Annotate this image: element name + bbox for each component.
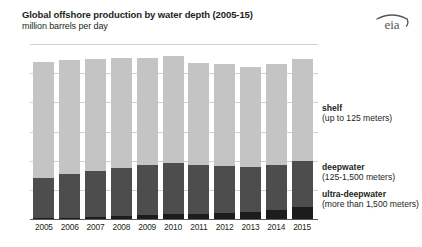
bar-segment-ultra-deepwater-2012[interactable] — [214, 213, 235, 219]
plot-area: 30 25 20 15 10 5 0 200520062007200820092… — [30, 44, 318, 219]
x-tick-2015: 2015 — [287, 222, 317, 232]
bar-segment-shelf-2014[interactable] — [266, 64, 287, 165]
bar-segment-deepwater-2013[interactable] — [240, 167, 261, 213]
bar-2015[interactable] — [292, 59, 313, 219]
bar-segment-deepwater-2006[interactable] — [59, 174, 80, 218]
bar-segment-deepwater-2008[interactable] — [111, 168, 132, 216]
bar-segment-shelf-2015[interactable] — [292, 59, 313, 161]
bar-2007[interactable] — [85, 59, 106, 219]
bar-2011[interactable] — [188, 63, 209, 219]
bar-segment-shelf-2009[interactable] — [137, 58, 158, 165]
bar-segment-shelf-2008[interactable] — [111, 58, 132, 168]
bar-2008[interactable] — [111, 58, 132, 219]
bar-segment-ultra-deepwater-2009[interactable] — [137, 215, 158, 219]
bar-segment-shelf-2007[interactable] — [85, 59, 106, 172]
bar-segment-deepwater-2005[interactable] — [33, 178, 54, 218]
bar-2009[interactable] — [137, 58, 158, 219]
bar-segment-deepwater-2011[interactable] — [188, 165, 209, 213]
legend-label-ultra-deepwater: ultra-deepwater — [322, 189, 419, 199]
legend-label-shelf: shelf — [322, 103, 392, 113]
bar-2010[interactable] — [163, 56, 184, 219]
bar-2012[interactable] — [214, 64, 235, 219]
chart-figure: Global offshore production by water dept… — [0, 0, 422, 247]
eia-logo: eia — [371, 10, 413, 34]
legend-detail-deepwater: (125-1,500 meters) — [322, 172, 395, 182]
chart-subtitle: million barrels per day — [22, 21, 108, 31]
bar-segment-ultra-deepwater-2013[interactable] — [240, 212, 261, 219]
bar-segment-ultra-deepwater-2011[interactable] — [188, 214, 209, 219]
svg-text:eia: eia — [384, 17, 399, 32]
bar-segment-shelf-2005[interactable] — [33, 62, 54, 179]
bar-2014[interactable] — [266, 64, 287, 219]
bar-segment-shelf-2006[interactable] — [59, 60, 80, 173]
bar-segment-deepwater-2014[interactable] — [266, 165, 287, 210]
bar-segment-ultra-deepwater-2014[interactable] — [266, 210, 287, 219]
bar-segment-deepwater-2012[interactable] — [214, 166, 235, 213]
bar-segment-ultra-deepwater-2008[interactable] — [111, 216, 132, 219]
bar-segment-ultra-deepwater-2015[interactable] — [292, 207, 313, 219]
legend-detail-ultra-deepwater: (more than 1,500 meters) — [322, 199, 419, 209]
bar-segment-ultra-deepwater-2006[interactable] — [59, 218, 80, 219]
bar-segment-shelf-2011[interactable] — [188, 63, 209, 165]
bar-2006[interactable] — [59, 60, 80, 219]
legend-item-shelf: shelf (up to 125 meters) — [322, 103, 392, 123]
bar-segment-deepwater-2009[interactable] — [137, 165, 158, 215]
bar-segment-deepwater-2015[interactable] — [292, 161, 313, 208]
legend-label-deepwater: deepwater — [322, 162, 395, 172]
bar-segment-deepwater-2007[interactable] — [85, 171, 106, 217]
legend-item-deepwater: deepwater (125-1,500 meters) — [322, 162, 395, 182]
bar-segment-deepwater-2010[interactable] — [163, 163, 184, 214]
bar-segment-shelf-2012[interactable] — [214, 64, 235, 166]
bar-segment-ultra-deepwater-2007[interactable] — [85, 217, 106, 219]
bar-segment-shelf-2013[interactable] — [240, 67, 261, 167]
legend-detail-shelf: (up to 125 meters) — [322, 113, 392, 123]
bar-segment-ultra-deepwater-2010[interactable] — [163, 214, 184, 219]
chart-title: Global offshore production by water dept… — [22, 9, 253, 20]
bar-segment-shelf-2010[interactable] — [163, 56, 184, 163]
legend-item-ultra-deepwater: ultra-deepwater (more than 1,500 meters) — [322, 189, 419, 209]
bar-2013[interactable] — [240, 67, 261, 219]
bar-2005[interactable] — [33, 62, 54, 220]
gridline-30 — [30, 44, 318, 45]
bar-segment-ultra-deepwater-2005[interactable] — [33, 218, 54, 219]
